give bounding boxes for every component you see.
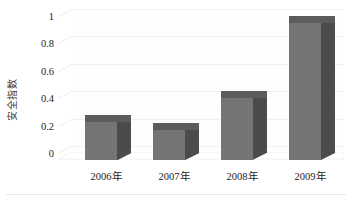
bar-top-face: [289, 16, 334, 23]
bar-top-face: [153, 123, 198, 130]
bar-front-face: [221, 98, 252, 160]
bar: [153, 123, 184, 160]
gridline-depth-segment: [58, 9, 72, 17]
bar-side-face: [321, 16, 335, 160]
x-axis-tick-label: 2009年: [295, 168, 326, 183]
y-axis-tick-label: 0: [49, 148, 54, 159]
bar-front-face: [85, 122, 116, 160]
y-axis-tick-labels: 00.20.40.60.81: [26, 16, 54, 160]
y-axis-tick-label: 0.2: [41, 120, 54, 131]
bar: [289, 16, 320, 160]
x-axis-tick-labels: 2006年2007年2008年2009年: [58, 168, 344, 186]
plot-area: [58, 16, 344, 160]
gridline-depth-segment: [58, 91, 72, 99]
bar-chart: 安全指数 00.20.40.60.81 2006年2007年2008年2009年: [0, 0, 352, 199]
bottom-divider: [6, 194, 346, 195]
y-axis-tick-label: 0.8: [41, 38, 54, 49]
y-axis-title: 安全指数: [0, 0, 22, 199]
gridline: [72, 9, 344, 10]
gridline-depth-segment: [58, 64, 72, 72]
bar-side-face: [253, 91, 267, 160]
y-axis-tick-label: 1: [49, 11, 54, 22]
x-axis-tick-label: 2006年: [91, 168, 122, 183]
bar-front-face: [153, 130, 184, 160]
x-axis-tick-label: 2008年: [227, 168, 258, 183]
bar-front-face: [289, 23, 320, 160]
y-axis-tick-label: 0.6: [41, 65, 54, 76]
x-axis-tick-label: 2007年: [159, 168, 190, 183]
bar: [85, 115, 116, 160]
bar: [221, 91, 252, 160]
gridline-depth-segment: [58, 36, 72, 44]
bar-top-face: [85, 115, 130, 122]
y-axis-tick-label: 0.4: [41, 93, 54, 104]
gridline-depth-segment: [58, 119, 72, 127]
bar-top-face: [221, 91, 266, 98]
